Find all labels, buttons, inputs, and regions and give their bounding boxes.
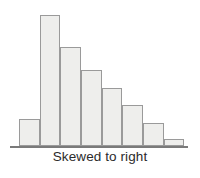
histogram-bar (81, 71, 101, 146)
histogram-bar (164, 140, 184, 146)
histogram-figure: Skewed to right (0, 0, 200, 178)
histogram-bar (40, 16, 60, 146)
histogram-bar (123, 106, 143, 146)
histogram-bar (20, 120, 40, 146)
histogram-bar (102, 89, 122, 146)
histogram-bar (61, 48, 81, 146)
histogram-bar (143, 124, 163, 146)
bar-group (20, 16, 184, 146)
chart-caption: Skewed to right (0, 148, 200, 165)
